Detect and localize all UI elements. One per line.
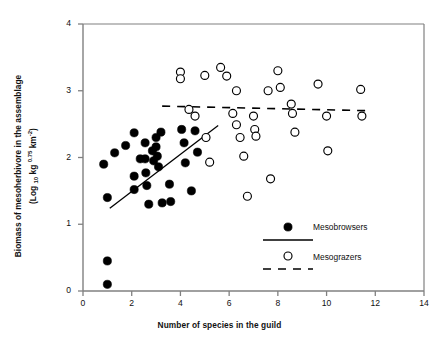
data-point-mesobrowsers <box>122 141 130 149</box>
data-point-mesobrowsers <box>141 155 149 163</box>
x-tick-label: 6 <box>209 298 249 308</box>
data-point-mesograzers <box>223 72 231 80</box>
data-point-mesograzers <box>240 152 248 160</box>
data-point-mesograzers <box>358 112 366 120</box>
data-point-mesograzers <box>232 87 240 95</box>
data-point-mesograzers <box>291 128 299 136</box>
data-point-mesobrowsers <box>181 159 189 167</box>
legend-label-mesobrowsers: Mesobrowsers <box>313 222 367 232</box>
scatter-plot-figure: Biomass of mesoherbivore in the assembla… <box>0 0 439 340</box>
legend-label-mesograzers: Mesograzers <box>313 252 361 262</box>
data-point-mesobrowsers <box>154 163 162 171</box>
data-point-mesograzers <box>288 109 296 117</box>
data-point-mesobrowsers <box>158 199 166 207</box>
legend-marker-open-circle-icon <box>284 252 292 260</box>
y-tick-label: 3 <box>49 85 71 95</box>
data-point-mesograzers <box>267 175 275 183</box>
x-tick-label: 0 <box>63 298 103 308</box>
data-point-mesograzers <box>250 112 258 120</box>
x-tick-label: 2 <box>112 298 152 308</box>
data-point-mesograzers <box>202 133 210 141</box>
data-point-mesograzers <box>287 100 295 108</box>
data-point-mesobrowsers <box>130 185 138 193</box>
data-point-mesobrowsers <box>103 193 111 201</box>
y-tick-label: 0 <box>49 285 71 295</box>
data-point-mesograzers <box>252 132 260 140</box>
data-point-mesobrowsers <box>178 125 186 133</box>
data-point-mesograzers <box>206 158 214 166</box>
x-tick-label: 8 <box>258 298 298 308</box>
data-point-mesobrowsers <box>130 129 138 137</box>
data-point-mesograzers <box>243 192 251 200</box>
data-point-mesobrowsers <box>167 197 175 205</box>
x-tick-label: 12 <box>355 298 395 308</box>
data-point-mesograzers <box>191 112 199 120</box>
data-point-mesobrowsers <box>153 152 161 160</box>
data-point-mesograzers <box>324 147 332 155</box>
y-tick-label: 2 <box>49 152 71 162</box>
data-point-mesobrowsers <box>157 128 165 136</box>
data-point-mesobrowsers <box>191 127 199 135</box>
data-point-mesobrowsers <box>111 149 119 157</box>
data-point-mesobrowsers <box>103 280 111 288</box>
y-tick-label: 1 <box>49 218 71 228</box>
data-point-mesograzers <box>357 85 365 93</box>
legend-marker-filled-circle-icon <box>284 223 292 231</box>
data-point-mesograzers <box>229 109 237 117</box>
data-point-mesograzers <box>274 67 282 75</box>
data-point-mesobrowsers <box>103 257 111 265</box>
x-tick-label: 14 <box>404 298 439 308</box>
data-point-mesograzers <box>185 105 193 113</box>
data-point-mesograzers <box>323 112 331 120</box>
data-point-mesobrowsers <box>141 139 149 147</box>
data-point-mesograzers <box>314 80 322 88</box>
data-point-mesobrowsers <box>152 143 160 151</box>
data-point-mesograzers <box>176 75 184 83</box>
data-point-mesograzers <box>201 71 209 79</box>
data-point-mesobrowsers <box>165 180 173 188</box>
data-point-mesograzers <box>236 133 244 141</box>
data-point-mesograzers <box>276 83 284 91</box>
x-tick-label: 10 <box>307 298 347 308</box>
data-point-mesobrowsers <box>143 181 151 189</box>
data-point-mesobrowsers <box>100 160 108 168</box>
data-point-mesobrowsers <box>145 200 153 208</box>
data-point-mesobrowsers <box>130 172 138 180</box>
data-point-mesograzers <box>232 121 240 129</box>
data-point-mesobrowsers <box>193 148 201 156</box>
x-tick-label: 4 <box>160 298 200 308</box>
data-point-mesobrowsers <box>187 187 195 195</box>
data-point-mesograzers <box>264 87 272 95</box>
data-point-mesobrowsers <box>142 169 150 177</box>
data-point-mesobrowsers <box>180 139 188 147</box>
y-tick-label: 4 <box>49 18 71 28</box>
data-point-mesograzers <box>217 63 225 71</box>
